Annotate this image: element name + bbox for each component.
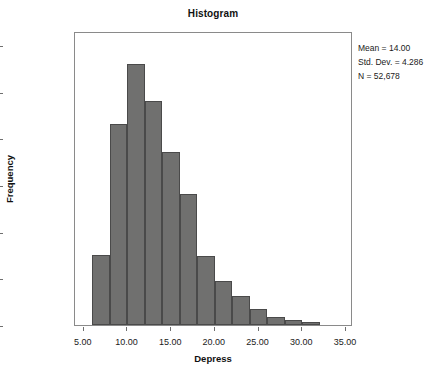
y-axis-tick-mark [0, 139, 3, 140]
histogram-bar [110, 124, 127, 325]
y-axis: Frequency 02,0004,0006,0008,00010,00012,… [0, 0, 74, 378]
chart-title: Histogram [74, 8, 352, 19]
y-axis-tick-mark [0, 46, 3, 47]
x-axis-tick-mark [83, 327, 84, 331]
histogram-figure: Histogram Frequency 02,0004,0006,0008,00… [0, 0, 448, 378]
x-axis-tick-mark [126, 327, 127, 331]
statistics-annotation: Mean = 14.00 Std. Dev. = 4.286 N = 52,67… [358, 41, 446, 83]
stat-mean: Mean = 14.00 [358, 41, 446, 55]
histogram-bar [267, 317, 284, 325]
x-axis-tick-label: 25.00 [246, 337, 269, 347]
x-axis-tick-label: 5.00 [74, 337, 92, 347]
x-axis-tick-mark [301, 327, 302, 331]
x-axis-tick-mark [214, 327, 215, 331]
histogram-bar [92, 255, 109, 325]
x-axis-tick-label: 30.00 [290, 337, 313, 347]
y-axis-tick-mark [0, 233, 3, 234]
histogram-bars [75, 33, 351, 325]
histogram-bar [250, 309, 267, 325]
x-axis-tick-mark [258, 327, 259, 331]
histogram-bar [215, 281, 232, 325]
histogram-bar [180, 194, 197, 325]
x-axis-tick-label: 20.00 [203, 337, 226, 347]
histogram-bar [127, 64, 144, 325]
stat-stddev: Std. Dev. = 4.286 [358, 55, 446, 69]
histogram-bar [197, 256, 214, 325]
histogram-bar [162, 152, 179, 325]
x-axis-tick-mark [170, 327, 171, 331]
y-axis-tick-mark [0, 93, 3, 94]
histogram-bar [285, 320, 302, 325]
x-axis-tick-label: 10.00 [115, 337, 138, 347]
x-axis-label: Depress [74, 353, 352, 364]
y-axis-label: Frequency [4, 155, 15, 203]
stat-n: N = 52,678 [358, 69, 446, 83]
y-axis-tick-mark [0, 186, 3, 187]
histogram-bar [302, 322, 319, 326]
histogram-bar [145, 101, 162, 325]
histogram-bar [232, 296, 249, 325]
x-axis-tick-label: 15.00 [159, 337, 182, 347]
x-axis: Depress 5.0010.0015.0020.0025.0030.0035.… [0, 326, 448, 378]
y-axis-tick-mark [0, 279, 3, 280]
x-axis-tick-mark [345, 327, 346, 331]
x-axis-tick-label: 35.00 [334, 337, 357, 347]
plot-area [74, 32, 352, 326]
